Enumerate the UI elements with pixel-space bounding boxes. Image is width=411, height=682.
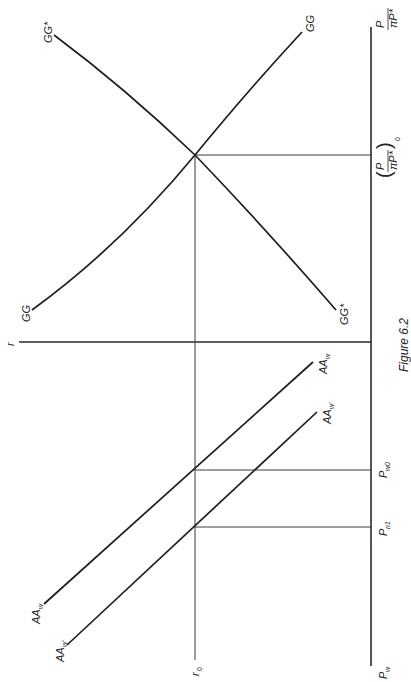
svg-text:AA: AA xyxy=(30,609,42,625)
svg-text:w: w xyxy=(384,666,391,672)
aaw-line xyxy=(44,362,313,604)
label-r0: r 0 xyxy=(189,667,203,676)
svg-text:P: P xyxy=(374,162,386,170)
label-aaw-top: AA w xyxy=(317,353,331,375)
label-gg-bottom: GG xyxy=(20,304,32,322)
svg-text:n1: n1 xyxy=(384,521,391,529)
svg-text:Figure 6.2: Figure 6.2 xyxy=(397,318,411,372)
label-ggstar-bottom: GG* xyxy=(338,303,350,325)
svg-text:w': w' xyxy=(61,640,68,647)
svg-text:πP*: πP* xyxy=(387,150,399,170)
label-gg-top: GG xyxy=(304,14,316,32)
label-price-ratio-axis: P πP* xyxy=(374,8,399,30)
label-pw0: P w0 xyxy=(377,462,391,478)
figure-diagram: GG* GG GG GG* r P πP* ( P πP* ) 0 AA w A… xyxy=(0,0,411,682)
svg-text:P: P xyxy=(374,20,386,28)
svg-text:AA: AA xyxy=(54,647,66,663)
svg-text:0: 0 xyxy=(196,667,203,671)
svg-text:w: w xyxy=(324,353,331,359)
svg-text:AA: AA xyxy=(321,409,333,425)
label-aawprime-bottom: AA w' xyxy=(54,640,68,663)
label-r-axis: r xyxy=(4,341,16,346)
svg-text:w: w xyxy=(37,603,44,609)
svg-text:GG*: GG* xyxy=(338,303,350,325)
svg-text:GG: GG xyxy=(20,304,32,322)
label-pw-axis: P w xyxy=(377,666,391,679)
figure-caption: Figure 6.2 xyxy=(397,318,411,372)
svg-text:w': w' xyxy=(328,402,335,409)
svg-text:w0: w0 xyxy=(384,462,391,471)
svg-text:0: 0 xyxy=(394,137,401,141)
svg-text:r: r xyxy=(4,341,16,346)
aawprime-line xyxy=(67,412,317,645)
svg-text:πP*: πP* xyxy=(387,8,399,28)
svg-text:GG*: GG* xyxy=(42,21,54,43)
label-equilibrium-ratio: ( P πP* ) 0 xyxy=(373,137,401,178)
svg-text:AA: AA xyxy=(317,359,329,375)
label-ggstar-top: GG* xyxy=(42,21,54,43)
svg-text:GG: GG xyxy=(304,14,316,32)
gg-curve xyxy=(32,32,302,310)
svg-text:(: ( xyxy=(373,171,395,178)
svg-text:): ) xyxy=(373,142,395,149)
label-aawprime-top: AA w' xyxy=(321,402,335,425)
label-pn1: P n1 xyxy=(377,521,391,536)
label-aaw-bottom: AA w xyxy=(30,603,44,625)
